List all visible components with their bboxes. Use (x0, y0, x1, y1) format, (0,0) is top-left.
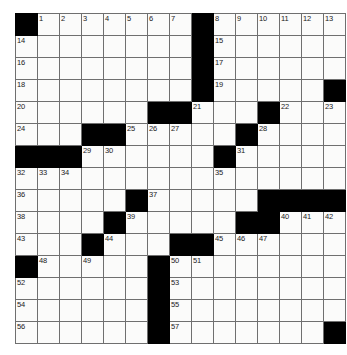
crossword-cell[interactable] (214, 300, 236, 322)
crossword-cell[interactable]: 10 (258, 14, 280, 36)
crossword-cell[interactable] (324, 124, 346, 146)
crossword-cell[interactable] (324, 36, 346, 58)
crossword-cell[interactable] (170, 36, 192, 58)
crossword-cell[interactable]: 20 (16, 102, 38, 124)
crossword-cell[interactable]: 51 (192, 256, 214, 278)
crossword-cell[interactable]: 56 (16, 322, 38, 344)
crossword-cell[interactable] (192, 124, 214, 146)
crossword-cell[interactable] (60, 278, 82, 300)
crossword-cell[interactable] (302, 58, 324, 80)
crossword-cell[interactable]: 52 (16, 278, 38, 300)
crossword-cell[interactable] (236, 80, 258, 102)
crossword-cell[interactable] (38, 58, 60, 80)
crossword-cell[interactable] (324, 234, 346, 256)
crossword-cell[interactable] (324, 168, 346, 190)
crossword-cell[interactable] (280, 234, 302, 256)
crossword-cell[interactable] (280, 58, 302, 80)
crossword-cell[interactable] (236, 190, 258, 212)
crossword-cell[interactable]: 33 (38, 168, 60, 190)
crossword-cell[interactable]: 39 (126, 212, 148, 234)
crossword-cell[interactable] (148, 58, 170, 80)
crossword-cell[interactable] (302, 168, 324, 190)
crossword-cell[interactable]: 7 (170, 14, 192, 36)
crossword-cell[interactable] (170, 212, 192, 234)
crossword-cell[interactable] (258, 146, 280, 168)
crossword-cell[interactable] (148, 168, 170, 190)
crossword-cell[interactable]: 44 (104, 234, 126, 256)
crossword-cell[interactable] (38, 36, 60, 58)
crossword-cell[interactable] (126, 300, 148, 322)
crossword-cell[interactable] (104, 256, 126, 278)
crossword-cell[interactable] (214, 102, 236, 124)
crossword-cell[interactable]: 37 (148, 190, 170, 212)
crossword-cell[interactable]: 34 (60, 168, 82, 190)
crossword-cell[interactable]: 21 (192, 102, 214, 124)
crossword-cell[interactable] (302, 36, 324, 58)
crossword-cell[interactable]: 26 (148, 124, 170, 146)
crossword-cell[interactable]: 54 (16, 300, 38, 322)
crossword-cell[interactable]: 25 (126, 124, 148, 146)
crossword-cell[interactable] (302, 322, 324, 344)
crossword-cell[interactable] (104, 58, 126, 80)
crossword-cell[interactable]: 11 (280, 14, 302, 36)
crossword-cell[interactable]: 18 (16, 80, 38, 102)
crossword-cell[interactable] (258, 80, 280, 102)
crossword-cell[interactable]: 28 (258, 124, 280, 146)
crossword-cell[interactable] (302, 124, 324, 146)
crossword-cell[interactable] (82, 190, 104, 212)
crossword-cell[interactable]: 41 (302, 212, 324, 234)
crossword-cell[interactable]: 24 (16, 124, 38, 146)
crossword-cell[interactable] (258, 256, 280, 278)
crossword-cell[interactable]: 38 (16, 212, 38, 234)
crossword-cell[interactable] (258, 168, 280, 190)
crossword-cell[interactable] (126, 58, 148, 80)
crossword-cell[interactable]: 27 (170, 124, 192, 146)
crossword-cell[interactable]: 4 (104, 14, 126, 36)
crossword-cell[interactable] (104, 102, 126, 124)
crossword-cell[interactable] (60, 234, 82, 256)
crossword-cell[interactable] (258, 278, 280, 300)
crossword-cell[interactable] (170, 190, 192, 212)
crossword-cell[interactable]: 49 (82, 256, 104, 278)
crossword-cell[interactable] (258, 36, 280, 58)
crossword-cell[interactable]: 12 (302, 14, 324, 36)
crossword-cell[interactable] (302, 278, 324, 300)
crossword-cell[interactable] (38, 80, 60, 102)
crossword-cell[interactable]: 42 (324, 212, 346, 234)
crossword-cell[interactable] (258, 322, 280, 344)
crossword-cell[interactable] (258, 300, 280, 322)
crossword-cell[interactable] (280, 80, 302, 102)
crossword-cell[interactable] (192, 300, 214, 322)
crossword-cell[interactable] (126, 36, 148, 58)
crossword-cell[interactable] (104, 300, 126, 322)
crossword-cell[interactable]: 43 (16, 234, 38, 256)
crossword-cell[interactable] (302, 80, 324, 102)
crossword-cell[interactable]: 31 (236, 146, 258, 168)
crossword-cell[interactable] (126, 80, 148, 102)
crossword-cell[interactable] (82, 278, 104, 300)
crossword-cell[interactable] (82, 322, 104, 344)
crossword-cell[interactable] (324, 58, 346, 80)
crossword-cell[interactable] (38, 322, 60, 344)
crossword-cell[interactable] (302, 146, 324, 168)
crossword-cell[interactable] (324, 146, 346, 168)
crossword-cell[interactable] (38, 234, 60, 256)
crossword-cell[interactable] (38, 190, 60, 212)
crossword-cell[interactable]: 30 (104, 146, 126, 168)
crossword-cell[interactable] (148, 234, 170, 256)
crossword-cell[interactable]: 55 (170, 300, 192, 322)
crossword-cell[interactable]: 36 (16, 190, 38, 212)
crossword-cell[interactable] (236, 168, 258, 190)
crossword-cell[interactable] (302, 234, 324, 256)
crossword-cell[interactable]: 29 (82, 146, 104, 168)
crossword-cell[interactable] (60, 124, 82, 146)
crossword-cell[interactable] (170, 58, 192, 80)
crossword-cell[interactable] (192, 190, 214, 212)
crossword-cell[interactable] (82, 58, 104, 80)
crossword-cell[interactable] (280, 278, 302, 300)
crossword-cell[interactable] (148, 36, 170, 58)
crossword-cell[interactable] (82, 212, 104, 234)
crossword-cell[interactable] (170, 80, 192, 102)
crossword-cell[interactable]: 8 (214, 14, 236, 36)
crossword-cell[interactable] (324, 300, 346, 322)
